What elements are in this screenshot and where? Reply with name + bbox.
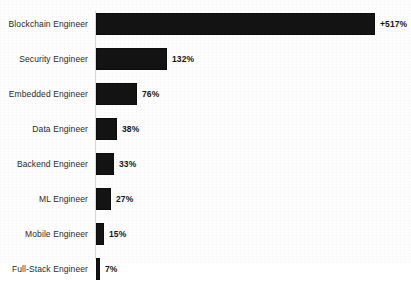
category-label: Data Engineer [0, 124, 88, 134]
category-label: Backend Engineer [0, 159, 88, 169]
bar [96, 48, 167, 70]
category-label: Security Engineer [0, 54, 88, 64]
bar [96, 153, 114, 175]
bar-row: Mobile Engineer 15% [0, 216, 411, 251]
bar [96, 13, 375, 35]
bar-value-label: 38% [122, 124, 139, 134]
bar-value-label: 27% [116, 194, 133, 204]
bar-row: Security Engineer 132% [0, 41, 411, 76]
category-label: Mobile Engineer [0, 229, 88, 239]
bar-row: ML Engineer 27% [0, 181, 411, 216]
bar [96, 83, 137, 105]
bar-value-label: +517% [380, 19, 407, 29]
category-label: Blockchain Engineer [0, 19, 88, 29]
bar-row: Data Engineer 38% [0, 111, 411, 146]
bar-value-label: 15% [109, 229, 126, 239]
bar-value-label: 76% [142, 89, 159, 99]
cropped-title [0, 0, 411, 5]
bar [96, 258, 100, 280]
bar-value-label: 7% [105, 264, 118, 274]
bar-row: Embedded Engineer 76% [0, 76, 411, 111]
bar-value-label: 132% [172, 54, 194, 64]
plot-area: Blockchain Engineer +517% Security Engin… [0, 6, 411, 263]
category-label: ML Engineer [0, 194, 88, 204]
bar-value-label: 33% [119, 159, 136, 169]
category-label: Embedded Engineer [0, 89, 88, 99]
bar-row: Blockchain Engineer +517% [0, 6, 411, 41]
bar [96, 223, 104, 245]
bar [96, 118, 117, 140]
category-label: Full-Stack Engineer [0, 264, 88, 274]
bar [96, 188, 111, 210]
bar-row: Full-Stack Engineer 7% [0, 251, 411, 284]
bar-row: Backend Engineer 33% [0, 146, 411, 181]
